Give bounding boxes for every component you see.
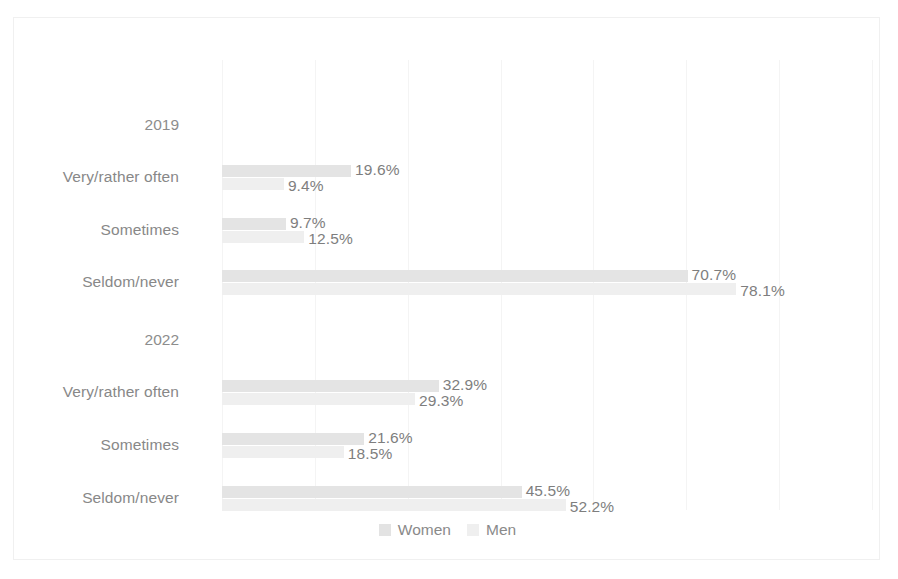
category-label-r2022b: Sometimes <box>101 436 179 454</box>
bar-women-r2022c[interactable] <box>222 486 522 498</box>
plot-area: 2019Very/rather often19.6%9.4%Sometimes9… <box>222 60 872 510</box>
category-label-r2022c: Seldom/never <box>82 489 179 507</box>
value-label-women-r2022c: 45.5% <box>526 482 570 500</box>
legend-item-men[interactable]: Men <box>467 521 516 539</box>
value-label-men-r2022b: 18.5% <box>348 445 392 463</box>
bar-women-r2019b[interactable] <box>222 218 286 230</box>
value-label-men-r2019b: 12.5% <box>308 230 352 248</box>
bar-women-r2019c[interactable] <box>222 270 688 282</box>
bar-men-r2022c[interactable] <box>222 499 566 511</box>
value-label-men-r2019c: 78.1% <box>740 282 784 300</box>
bar-women-r2019a[interactable] <box>222 165 351 177</box>
chart-page: 2019Very/rather often19.6%9.4%Sometimes9… <box>0 0 898 579</box>
group-label-2019: 2019 <box>145 116 179 134</box>
bar-men-r2019a[interactable] <box>222 178 284 190</box>
bar-men-r2022a[interactable] <box>222 393 415 405</box>
value-label-men-r2019a: 9.4% <box>288 177 324 195</box>
category-label-r2019c: Seldom/never <box>82 273 179 291</box>
bar-men-r2019c[interactable] <box>222 283 736 295</box>
bar-men-r2022b[interactable] <box>222 446 344 458</box>
value-label-women-r2019c: 70.7% <box>692 266 736 284</box>
legend-item-women[interactable]: Women <box>379 521 451 539</box>
gridline-7 <box>872 60 873 510</box>
legend-swatch-men <box>467 524 479 536</box>
category-label-r2022a: Very/rather often <box>63 383 179 401</box>
group-label-2022: 2022 <box>145 331 179 349</box>
chart-frame: 2019Very/rather often19.6%9.4%Sometimes9… <box>13 17 880 560</box>
legend-label-women: Women <box>398 521 451 539</box>
legend-label-men: Men <box>486 521 516 539</box>
bar-men-r2019b[interactable] <box>222 231 304 243</box>
value-label-men-r2022a: 29.3% <box>419 392 463 410</box>
legend-swatch-women <box>379 524 391 536</box>
bar-women-r2022a[interactable] <box>222 380 439 392</box>
category-label-r2019a: Very/rather often <box>63 168 179 186</box>
value-label-men-r2022c: 52.2% <box>570 498 614 516</box>
value-label-women-r2019a: 19.6% <box>355 161 399 179</box>
bar-women-r2022b[interactable] <box>222 433 364 445</box>
category-label-r2019b: Sometimes <box>101 221 179 239</box>
chart-legend: Women Men <box>14 521 881 539</box>
